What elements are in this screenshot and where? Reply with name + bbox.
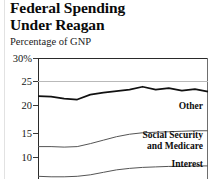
series-label-ssm-line-2: and Medicare: [147, 141, 203, 151]
y-tick-15: [33, 133, 38, 134]
y-tick-25: [33, 81, 38, 82]
y-tick-10: [33, 157, 38, 158]
chart-figure: Federal Spending Under Reagan Percentage…: [0, 0, 209, 179]
series-line-other: [38, 87, 208, 100]
y-tick-label-25: 25: [2, 76, 32, 87]
y-tick-label-30: 30%: [2, 53, 32, 64]
plot-right-border: [207, 58, 208, 179]
series-label-social-security-medicare: Social Security and Medicare: [93, 130, 203, 151]
chart-title: Federal Spending Under Reagan: [10, 0, 206, 33]
gridline-25: [38, 81, 208, 82]
y-tick-label-20: 20: [2, 100, 32, 111]
y-tick-label-15: 15: [2, 128, 32, 139]
y-tick-label-10: 10: [2, 152, 32, 163]
plot-top-border: [38, 58, 208, 59]
y-tick-20: [33, 105, 38, 106]
series-label-interest: Interest: [113, 159, 203, 170]
series-label-other: Other: [113, 101, 203, 112]
chart-title-line-2: Under Reagan: [10, 17, 206, 34]
series-label-ssm-line-1: Social Security: [143, 130, 203, 140]
y-tick-30: [33, 58, 38, 59]
y-axis-labels: 30% 25 20 15 10: [0, 0, 32, 179]
y-axis-line: [38, 58, 39, 179]
